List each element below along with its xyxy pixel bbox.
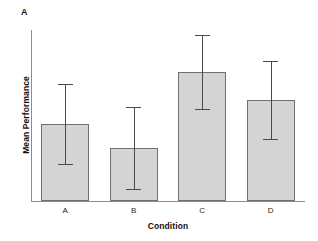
error-cap-lower-a <box>58 164 73 165</box>
error-cap-lower-b <box>126 189 141 190</box>
error-cap-lower-d <box>263 139 278 140</box>
x-tick-label-d: D <box>251 206 291 216</box>
error-bar-d <box>271 61 272 139</box>
x-tick-label-b: B <box>114 206 154 216</box>
error-bar-b <box>134 107 135 189</box>
error-cap-lower-c <box>195 109 210 110</box>
figure-panel-a: A Mean Performance Condition ABCD <box>0 0 318 241</box>
error-cap-upper-c <box>195 35 210 36</box>
error-cap-upper-b <box>126 107 141 108</box>
plot-area: ABCD <box>0 0 318 241</box>
x-tick-label-c: C <box>182 206 222 216</box>
error-bar-a <box>65 84 66 164</box>
x-tick-label-a: A <box>45 206 85 216</box>
error-cap-upper-a <box>58 84 73 85</box>
error-bar-c <box>202 35 203 109</box>
error-cap-upper-d <box>263 61 278 62</box>
